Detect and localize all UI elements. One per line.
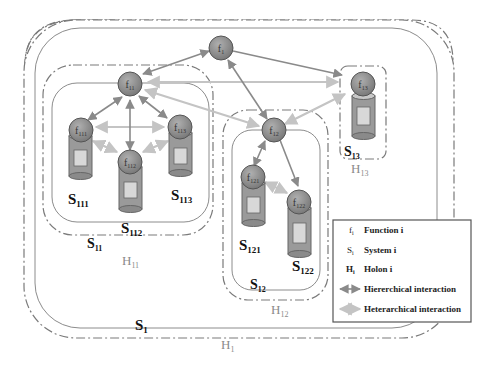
node-f121 <box>241 165 265 189</box>
node-f112 <box>118 150 142 174</box>
holonic-diagram: f1 f11 f111 f112 f113 f12 f13 f121 f122 … <box>0 0 488 366</box>
node-f122 <box>287 190 311 214</box>
node-f111 <box>69 118 93 142</box>
legend-label-holon: Holon i <box>364 264 393 274</box>
legend-label-system: System i <box>364 245 397 255</box>
legend-label-function: Function i <box>364 225 404 235</box>
node-f113 <box>168 115 192 139</box>
cylinder-S13 <box>352 93 375 140</box>
label-H1: H1 <box>221 337 234 354</box>
node-f13 <box>351 72 375 96</box>
legend-label-hierarchical: Hiererchical interaction <box>364 284 456 294</box>
node-f12 <box>262 118 286 142</box>
legend: fi Function i Si System i Hi Holon i Hie… <box>333 220 471 322</box>
node-f11 <box>118 72 142 96</box>
legend-label-heterarchical: Heterarchical interaction <box>364 304 461 314</box>
